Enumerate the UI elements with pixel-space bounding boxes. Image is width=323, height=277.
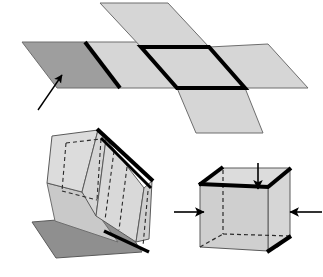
diagram-root: Folding a paper net into a cube <box>0 0 323 277</box>
cube-face-front-left <box>200 184 268 251</box>
folding-cube-diagram: Folding a paper net into a cube <box>0 0 323 277</box>
